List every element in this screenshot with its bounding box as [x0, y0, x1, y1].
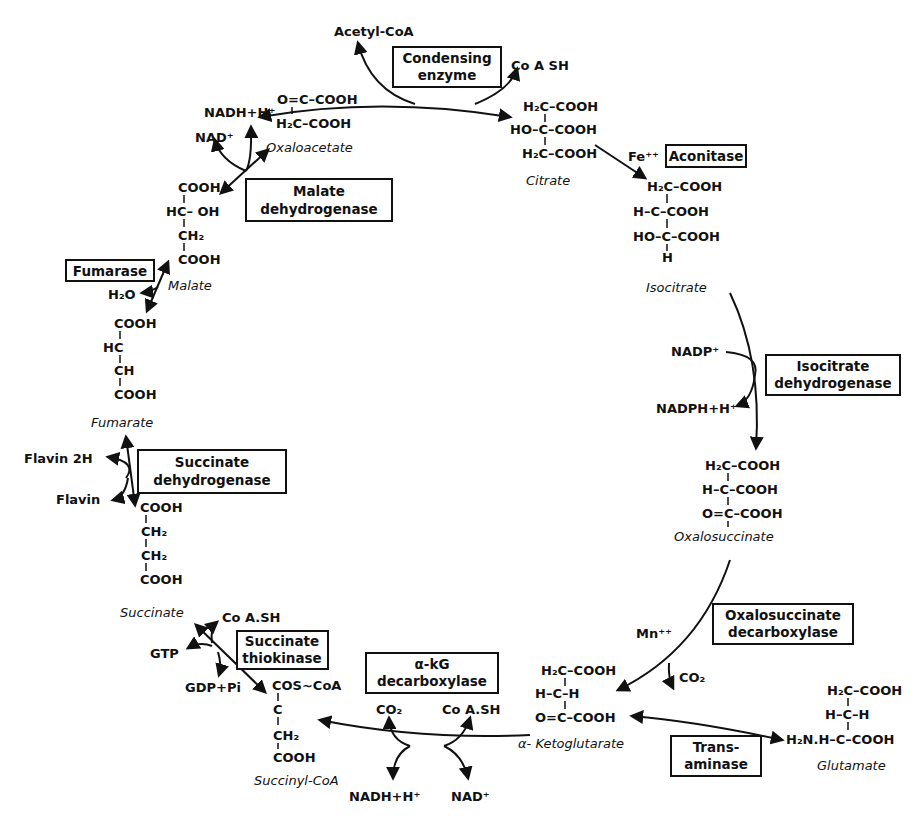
- metabolite-glutamate: H₂C–COOH H–C–H H₂N.H–C–COOH Glutamate: [786, 683, 902, 773]
- arrow-isocitrate-oxalosuccinate: [730, 293, 757, 448]
- arrow-nadh-akg: [393, 746, 410, 778]
- ketoglutarate-line-1: H₂C–COOH: [541, 663, 616, 678]
- akg-dc-reaction: CO₂ Co A.SH NADH+H⁺ NAD⁺ α-kG decarboxyl…: [320, 653, 530, 804]
- arrow-flavin: [113, 478, 128, 500]
- nad-malate-label: NAD⁺: [195, 130, 234, 145]
- succinate-line-2: CH₂: [141, 524, 167, 539]
- metabolite-fumarate: COOH HC CH COOH Fumarate: [91, 316, 157, 430]
- h2o-label: H₂O: [108, 287, 136, 302]
- enzyme-label-condensing-2: enzyme: [418, 67, 477, 83]
- enzyme-label-condensing-1: Condensing: [402, 50, 491, 66]
- succinate-line-3: CH₂: [141, 548, 167, 563]
- enzyme-label-isocitrate-dh-2: dehydrogenase: [774, 375, 892, 391]
- metabolite-ketoglutarate: H₂C–COOH H–C–H O=C–COOH α- Ketoglutarate: [518, 663, 624, 751]
- succinyl-coa-line-4: COOH: [273, 750, 316, 765]
- succinyl-coa-name: Succinyl-CoA: [254, 773, 339, 788]
- nadp-label: NADP⁺: [671, 344, 719, 359]
- succinyl-coa-line-3: CH₂: [273, 728, 299, 743]
- glutamate-name: Glutamate: [817, 758, 886, 773]
- glutamate-line-2: H–C–H: [825, 707, 869, 722]
- enzyme-label-succinate-thiokinase-1: Succinate: [245, 633, 319, 649]
- succinate-dh-reaction: Flavin 2H Flavin Succinate dehydrogenase: [24, 437, 286, 507]
- metabolite-succinyl-coa: COS~CoA C CH₂ COOH Succinyl-CoA: [254, 678, 341, 788]
- succinyl-coa-line-1: COS~CoA: [272, 678, 341, 693]
- citrate-line-3: H₂C–COOH: [522, 146, 597, 161]
- arrow-co2-release: [669, 663, 673, 688]
- metabolite-malate: COOH HC– OH CH₂ COOH Malate: [166, 180, 221, 293]
- oxalosuccinate-line-1: H₂C–COOH: [705, 458, 780, 473]
- glutamate-line-3: H₂N.H–C–COOH: [786, 732, 894, 747]
- citrate-line-1: H₂C–COOH: [523, 99, 598, 114]
- nadh-malate-label: NADH+H⁺: [204, 105, 275, 120]
- nadh-akg-label: NADH+H⁺: [349, 789, 420, 804]
- enzyme-label-transaminase-2: aminase: [684, 756, 748, 772]
- fumarate-line-3: CH: [114, 363, 134, 378]
- nad-akg-label: NAD⁺: [451, 789, 490, 804]
- coash-akg-label: Co A.SH: [442, 702, 500, 717]
- succinate-name: Succinate: [120, 605, 184, 620]
- enzyme-label-isocitrate-dh-1: Isocitrate: [797, 358, 870, 374]
- coash-label: Co A SH: [511, 58, 569, 73]
- oxaloacetate-name: Oxaloacetate: [266, 140, 353, 155]
- fumarate-line-4: COOH: [114, 387, 157, 402]
- ketoglutarate-line-2: H–C–H: [535, 686, 579, 701]
- arrow-nadh-malate: [246, 127, 251, 171]
- metabolite-succinate: COOH CH₂ CH₂ COOH Succinate: [120, 500, 184, 620]
- isocitrate-line-3: HO–C–COOH: [633, 229, 720, 244]
- enzyme-label-oxalosuccinate-dc-1: Oxalosuccinate: [725, 607, 841, 623]
- metabolite-isocitrate: H₂C–COOH H–C–COOH HO–C–COOH H Isocitrate: [633, 179, 722, 295]
- acetyl-coa-label: Acetyl-CoA: [334, 24, 414, 39]
- malate-line-3: CH₂: [178, 228, 204, 243]
- flavin-label: Flavin: [56, 492, 100, 507]
- mn-label: Mn⁺⁺: [636, 626, 672, 641]
- enzyme-label-succinate-dh-1: Succinate: [175, 454, 249, 470]
- fumarase-reaction: H₂O Fumarase: [66, 260, 168, 311]
- enzyme-label-fumarase: Fumarase: [73, 263, 147, 279]
- enzyme-label-akg-dc-1: α-kG: [415, 656, 450, 672]
- gtp-label: GTP: [150, 646, 179, 661]
- aconitase-reaction: Fe⁺⁺ Aconitase: [595, 145, 746, 178]
- isocitrate-dh-reaction: NADP⁺ NADPH+H⁺ Isocitrate dehydrogenase: [656, 293, 900, 448]
- flavin2h-label: Flavin 2H: [24, 451, 93, 466]
- ketoglutarate-name: α- Ketoglutarate: [518, 736, 624, 751]
- oxaloacetate-line-1: O=C–COOH: [277, 92, 358, 107]
- transaminase-reaction: Trans- aminase: [632, 716, 782, 776]
- oxalosuccinate-line-2: H–C–COOH: [702, 482, 778, 497]
- metabolite-oxalosuccinate: H₂C–COOH H–C–COOH O=C–COOH Oxalosuccinat…: [674, 458, 783, 544]
- coash-succ-label: Co A.SH: [222, 610, 280, 625]
- arrow-coash-succ: [212, 622, 217, 643]
- krebs-cycle-diagram: Acetyl-CoA Co A SH Condensing enzyme O=C…: [0, 0, 921, 820]
- arrow-gtp: [188, 644, 212, 648]
- isocitrate-line-2: H–C–COOH: [633, 204, 709, 219]
- gdp-label: GDP+Pi: [185, 680, 241, 695]
- isocitrate-line-1: H₂C–COOH: [647, 179, 722, 194]
- metabolite-oxaloacetate: O=C–COOH H₂C–COOH Oxaloacetate: [266, 92, 358, 155]
- arrow-nadp-nadph: [726, 352, 756, 406]
- fumarate-line-1: COOH: [114, 316, 157, 331]
- malate-line-1: COOH: [178, 180, 221, 195]
- arrow-flavin2h: [108, 457, 129, 478]
- metabolite-citrate: H₂C–COOH HO–C–COOH H₂C–COOH Citrate: [510, 99, 598, 188]
- co2-oxalo-label: CO₂: [679, 670, 705, 685]
- fe-label: Fe⁺⁺: [628, 149, 659, 164]
- enzyme-label-succinate-thiokinase-2: thiokinase: [242, 650, 321, 666]
- enzyme-label-malate-dh-1: Malate: [293, 183, 345, 199]
- citrate-line-2: HO–C–COOH: [510, 122, 597, 137]
- enzyme-label-aconitase: Aconitase: [669, 148, 744, 164]
- arrow-ketoglutarate-succinylcoa: [320, 720, 530, 736]
- oxalosuccinate-line-3: O=C–COOH: [702, 506, 783, 521]
- oxaloacetate-line-2: H₂C–COOH: [276, 116, 351, 131]
- arrow-nad-akg: [444, 746, 468, 778]
- malate-line-4: COOH: [178, 252, 221, 267]
- arrow-succinate-fumarate: [126, 437, 135, 505]
- enzyme-label-succinate-dh-2: dehydrogenase: [153, 472, 271, 488]
- malate-line-2: HC– OH: [166, 204, 219, 219]
- enzyme-label-malate-dh-2: dehydrogenase: [260, 201, 378, 217]
- isocitrate-line-4: H: [662, 250, 673, 265]
- ketoglutarate-line-3: O=C–COOH: [535, 710, 616, 725]
- co2-akg-label: CO₂: [376, 702, 402, 717]
- enzyme-label-transaminase-1: Trans-: [693, 739, 740, 755]
- enzyme-label-oxalosuccinate-dc-2: decarboxylase: [728, 624, 838, 640]
- succinate-line-1: COOH: [140, 500, 183, 515]
- arrow-gdp: [218, 652, 220, 675]
